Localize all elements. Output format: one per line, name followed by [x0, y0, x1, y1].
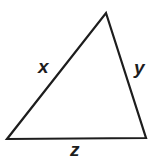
side-label-x: x [38, 57, 49, 76]
triangle-shape [0, 0, 154, 162]
triangle-outline [7, 13, 146, 139]
side-label-z: z [70, 140, 80, 159]
side-label-y: y [134, 58, 145, 77]
triangle-figure: x y z [0, 0, 154, 162]
